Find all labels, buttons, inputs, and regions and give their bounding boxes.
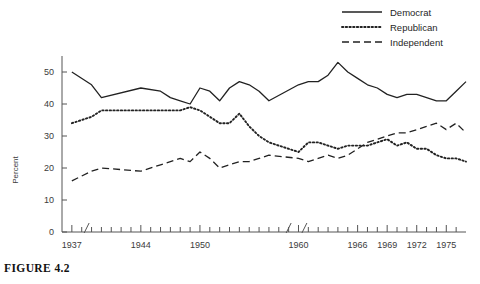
x-tick-label: 1950 xyxy=(190,240,210,250)
x-tick-label: 1960 xyxy=(288,240,308,250)
series-line-republican xyxy=(72,107,466,161)
legend-label-independent: Independent xyxy=(390,37,443,48)
figure-caption: FIGURE 4.2 xyxy=(4,262,70,274)
x-tick-label: 1966 xyxy=(348,240,368,250)
y-tick-label: 30 xyxy=(44,131,54,141)
x-tick-label: 1944 xyxy=(131,240,151,250)
series-line-independent xyxy=(72,123,466,181)
y-tick-label: 40 xyxy=(44,99,54,109)
legend-label-democrat: Democrat xyxy=(390,7,432,18)
y-tick-label: 20 xyxy=(44,163,54,173)
figure-container: 01020304050Percent1937194419501960196619… xyxy=(0,0,480,284)
x-tick-label: 1969 xyxy=(377,240,397,250)
x-tick-label: 1972 xyxy=(407,240,427,250)
y-axis-title: Percent xyxy=(11,155,20,183)
y-tick-label: 0 xyxy=(49,227,54,237)
x-tick-label: 1975 xyxy=(436,240,456,250)
y-tick-label: 50 xyxy=(44,67,54,77)
series-line-democrat xyxy=(72,62,466,104)
y-tick-label: 10 xyxy=(44,195,54,205)
legend-label-republican: Republican xyxy=(390,22,438,33)
line-chart: 01020304050Percent1937194419501960196619… xyxy=(0,0,480,284)
x-tick-label: 1937 xyxy=(62,240,82,250)
